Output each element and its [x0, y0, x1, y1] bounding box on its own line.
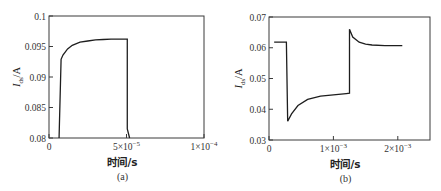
x-tick-label: 0	[267, 144, 272, 154]
plot-frame-a	[49, 16, 204, 138]
data-line-b	[274, 29, 402, 121]
y-axis-label-b: Ids/A	[233, 68, 247, 90]
x-tick-label: 1×10−3	[320, 142, 348, 154]
x-axis-ticks-a: 05×10−51×10−4	[47, 134, 218, 152]
data-line-a	[59, 39, 130, 138]
x-tick-label: 1×10−4	[190, 140, 218, 152]
panel-caption-b: (b)	[340, 173, 352, 185]
y-tick-label: 0.05	[249, 74, 266, 84]
y-axis-label-a: Ids/A	[11, 66, 25, 88]
y-tick-label: 0.08	[29, 134, 46, 144]
y-tick-label: 0.1	[34, 12, 46, 22]
y-tick-label: 0.06	[249, 43, 266, 53]
y-tick: 0.1	[34, 12, 53, 22]
panel-caption-a: (a)	[117, 171, 128, 183]
chart-panel-b: 0.030.040.050.060.07 01×10−32×10−3 Ids/A…	[233, 13, 430, 186]
y-tick-label: 0.09	[29, 73, 46, 83]
y-tick-label: 0.07	[249, 13, 266, 23]
figure-canvas: 0.080.0850.090.0950.1 05×10−51×10−4 Ids/…	[0, 0, 441, 191]
x-axis-ticks-b: 01×10−32×10−3	[267, 136, 412, 154]
x-axis-label-b: 时间/s	[330, 158, 360, 170]
chart-panel-a: 0.080.0850.090.0950.1 05×10−51×10−4 Ids/…	[11, 12, 218, 184]
x-tick-label: 0	[47, 142, 52, 152]
y-tick-label: 0.03	[249, 136, 266, 146]
y-tick-label: 0.04	[249, 105, 266, 115]
x-tick-label: 2×10−3	[384, 142, 412, 154]
x-tick-label: 5×10−5	[113, 140, 141, 152]
y-tick-label: 0.095	[25, 42, 47, 52]
y-tick-label: 0.085	[25, 103, 47, 113]
x-axis-label-a: 时间/s	[107, 156, 137, 168]
